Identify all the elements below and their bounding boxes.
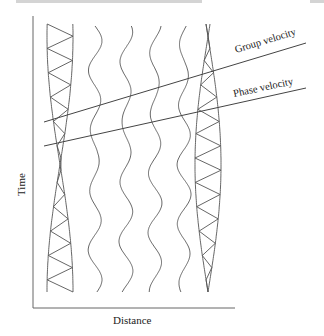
right-envelope	[195, 24, 221, 292]
envelope-edge-right	[47, 24, 73, 292]
phase-velocity-line	[44, 88, 306, 146]
wave-trace	[177, 26, 191, 292]
wave-traces	[88, 26, 191, 292]
x-axis-label: Distance	[113, 314, 152, 326]
wave-trace	[148, 26, 162, 292]
wave-diagram: Group velocity Phase velocity Time Dista…	[0, 0, 324, 336]
envelope-edge-left	[206, 24, 221, 292]
envelope-zigzag	[195, 24, 221, 292]
left-envelope	[47, 24, 73, 292]
envelope-edge-right	[195, 24, 210, 292]
wave-trace	[88, 26, 102, 292]
envelope-edge-left	[47, 24, 73, 292]
envelope-zigzag	[47, 24, 73, 292]
y-axis-label: Time	[15, 173, 27, 196]
phase-velocity-label: Phase velocity	[232, 75, 295, 99]
wave-trace	[119, 26, 133, 292]
group-velocity-label: Group velocity	[233, 26, 297, 55]
